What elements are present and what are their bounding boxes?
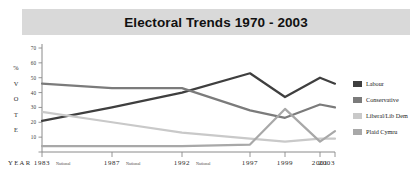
chart-page: Electoral Trends 1970 - 2003 10203040506…	[0, 0, 418, 181]
y-axis-title-char: %	[13, 64, 19, 71]
plot-area: 10203040506070 1983National1987National1…	[0, 40, 418, 170]
legend-swatch	[353, 129, 362, 135]
x-tick-label: 1999	[277, 159, 293, 167]
y-axis-title-group: %VOTE	[13, 64, 19, 133]
legend-label: Plaid Cymru	[366, 128, 397, 135]
line-chart: 10203040506070 1983National1987National1…	[0, 40, 418, 170]
y-tick-label: 50	[31, 75, 37, 81]
y-tick-label: 70	[31, 45, 37, 51]
axes-group: 10203040506070	[31, 44, 335, 152]
x-tick-label: 1983	[34, 159, 50, 167]
y-axis-title-char: E	[14, 126, 18, 133]
y-tick-label: 30	[31, 104, 37, 110]
x-axis-group: 1983National1987National1992National1997…	[8, 152, 335, 167]
x-axis-title: YEAR	[8, 159, 32, 166]
x-tick-label: 2003	[319, 159, 335, 167]
legend-swatch	[353, 97, 362, 103]
legend-swatch	[353, 113, 362, 119]
legend-label: Conservative	[366, 96, 399, 103]
x-tick-label: 1992	[174, 159, 190, 167]
legend-swatch	[353, 81, 362, 87]
y-axis-title-char: V	[14, 80, 19, 87]
y-axis-title-char: O	[14, 95, 19, 102]
y-axis-title-char: T	[14, 111, 18, 118]
y-tick-label: 60	[31, 60, 37, 66]
x-tick-label: 1987	[104, 159, 120, 167]
legend-label: Labour	[366, 80, 384, 87]
x-tick-sublabel: National	[196, 161, 211, 166]
series-group	[42, 73, 335, 146]
y-tick-label: 20	[31, 119, 37, 125]
y-tick-label: 40	[31, 90, 37, 96]
legend-label: Liberal/Lib Dem	[366, 112, 408, 119]
x-tick-label: 1997	[242, 159, 258, 167]
x-tick-sublabel: National	[126, 161, 141, 166]
legend-group: LabourConservativeLiberal/Lib DemPlaid C…	[353, 80, 408, 135]
x-tick-sublabel: National	[56, 161, 71, 166]
y-tick-label: 10	[31, 134, 37, 140]
page-title: Electoral Trends 1970 - 2003	[22, 9, 410, 35]
